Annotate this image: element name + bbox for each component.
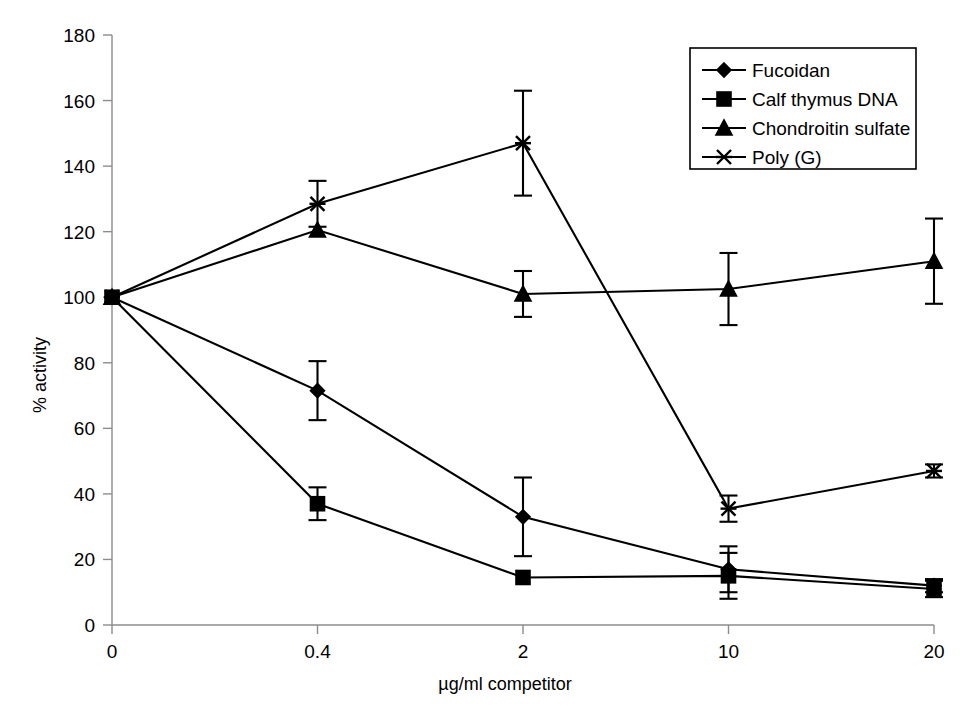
x-tick-label: 2	[518, 641, 529, 662]
legend-item-label: Poly (G)	[752, 147, 822, 168]
marker-square	[722, 569, 736, 583]
marker-square	[516, 570, 530, 584]
y-axis-title: % activity	[30, 337, 50, 413]
y-tick-label: 120	[63, 222, 95, 243]
y-tick-label: 100	[63, 287, 95, 308]
chart-container: 020406080100120140160180 00.421020 Fucoi…	[0, 0, 971, 719]
legend-item-label: Calf thymus DNA	[752, 89, 898, 110]
x-tick-label: 0	[107, 641, 118, 662]
chart-legend: FucoidanCalf thymus DNAChondroitin sulfa…	[690, 48, 916, 169]
y-tick-label: 60	[74, 418, 95, 439]
y-tick-label: 0	[84, 615, 95, 636]
y-tick-label: 20	[74, 549, 95, 570]
x-tick-label: 20	[923, 641, 944, 662]
y-tick-label: 40	[74, 484, 95, 505]
x-tick-label: 10	[718, 641, 739, 662]
y-tick-label: 80	[74, 353, 95, 374]
marker-square	[927, 582, 941, 596]
y-tick-label: 140	[63, 156, 95, 177]
x-tick-label: 0.4	[304, 641, 331, 662]
y-tick-label: 180	[63, 25, 95, 46]
legend-item-label: Chondroitin sulfate	[752, 118, 910, 139]
line-chart: 020406080100120140160180 00.421020 Fucoi…	[0, 0, 971, 719]
y-tick-label: 160	[63, 91, 95, 112]
x-axis-title: µg/ml competitor	[438, 674, 571, 694]
legend-item-label: Fucoidan	[752, 60, 830, 81]
marker-square	[311, 497, 325, 511]
marker-square	[717, 92, 731, 106]
